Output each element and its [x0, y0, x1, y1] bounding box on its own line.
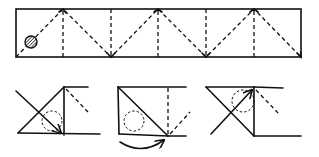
fold-step-3 [206, 87, 301, 136]
vertical-creases [63, 9, 254, 57]
fold-step-1 [16, 87, 100, 135]
flip-arrow [120, 140, 164, 149]
fold-step-2 [118, 87, 190, 149]
hatched-circle-marker [25, 36, 37, 48]
paper-strip [16, 9, 301, 57]
folding-diagram [0, 0, 319, 157]
dashed-circle-marker [124, 111, 144, 131]
dashed-circle-marker [42, 111, 62, 131]
